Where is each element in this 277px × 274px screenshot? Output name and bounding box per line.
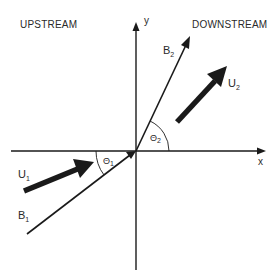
theta1-label: Θ1	[103, 156, 114, 167]
y-axis-arrowhead-icon	[133, 22, 140, 31]
b2-arrowhead-icon	[181, 36, 190, 49]
u1-label: U1	[18, 168, 30, 182]
b2-label: B2	[163, 44, 174, 58]
upstream-label: UPSTREAM	[20, 19, 77, 30]
x-axis-label: x	[258, 156, 263, 167]
u1-velocity-arrow	[24, 159, 94, 191]
y-axis-label: y	[144, 15, 149, 26]
theta2-label: Θ2	[150, 133, 161, 144]
u2-velocity-arrow	[177, 66, 227, 122]
x-axis-arrowhead-icon	[257, 148, 266, 155]
shock-geometry-diagram: UPSTREAM DOWNSTREAM y x B1 B2 U1 U2 Θ1 Θ…	[0, 0, 277, 274]
x-axis	[11, 148, 266, 155]
downstream-label: DOWNSTREAM	[192, 19, 267, 30]
b1-label: B1	[18, 209, 29, 223]
u2-label: U2	[228, 77, 240, 91]
